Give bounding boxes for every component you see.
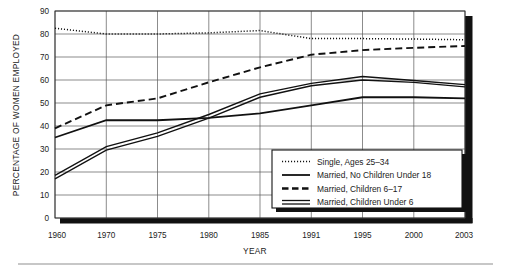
- y-axis-tick-labels: 90 80 70 60 50 40 30 20 10 0: [40, 7, 50, 223]
- x-tick-1975: 1975: [148, 231, 167, 240]
- x-tick-1970: 1970: [97, 231, 116, 240]
- y-tick-0: 0: [44, 214, 49, 223]
- chart-legend: Single, Ages 25–34 Married, No Children …: [272, 150, 466, 212]
- x-tick-2003: 2003: [455, 231, 474, 240]
- y-tick-30: 30: [40, 145, 50, 154]
- legend-item-label: Married, Children Under 6: [317, 197, 414, 207]
- x-axis-title: YEAR: [243, 246, 267, 256]
- y-tick-50: 50: [40, 99, 50, 108]
- y-tick-10: 10: [40, 191, 50, 200]
- y-axis-title: PERCENTAGE OF WOMEN EMPLOYED: [11, 34, 21, 196]
- x-tick-2000: 2000: [405, 231, 424, 240]
- legend-item-label: Single, Ages 25–34: [317, 157, 390, 167]
- y-tick-80: 80: [40, 30, 50, 39]
- legend-item-label: Married, No Children Under 18: [317, 170, 431, 180]
- x-tick-1980: 1980: [200, 231, 219, 240]
- legend-item-label: Married, Children 6–17: [317, 184, 403, 194]
- x-tick-1960: 1960: [48, 231, 67, 240]
- x-tick-1991: 1991: [302, 231, 321, 240]
- y-tick-20: 20: [40, 168, 50, 177]
- y-tick-70: 70: [40, 53, 50, 62]
- chart-figure: 90 80 70 60 50 40 30 20 10 0 1960 1970 1…: [0, 0, 511, 271]
- y-tick-90: 90: [40, 7, 50, 16]
- x-tick-1985: 1985: [251, 231, 270, 240]
- y-tick-60: 60: [40, 76, 50, 85]
- x-tick-1995: 1995: [353, 231, 372, 240]
- x-axis-tick-labels: 1960 1970 1975 1980 1985 1991 1995 2000 …: [48, 231, 474, 240]
- y-tick-40: 40: [40, 122, 50, 131]
